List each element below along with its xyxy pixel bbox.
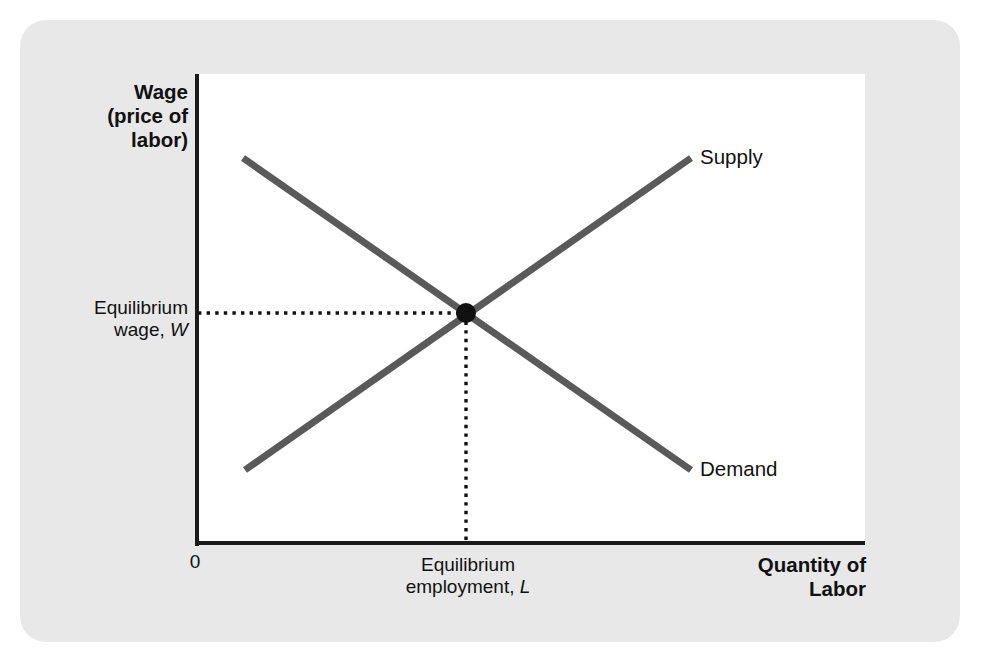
x-axis-title: Quantity of Labor bbox=[700, 553, 866, 601]
equilibrium-employment-text: Equilibrium employment, bbox=[406, 554, 520, 597]
equilibrium-employment-symbol: L bbox=[520, 576, 531, 597]
supply-curve-label: Supply bbox=[700, 145, 763, 169]
origin-label: 0 bbox=[182, 551, 208, 573]
demand-curve-label: Demand bbox=[700, 457, 778, 481]
equilibrium-point-marker bbox=[456, 303, 476, 323]
figure-root: Wage (price of labor) Equilibrium wage, … bbox=[0, 0, 982, 667]
y-axis-title: Wage (price of labor) bbox=[46, 80, 188, 153]
equilibrium-wage-label: Equilibrium wage, W bbox=[40, 297, 188, 342]
equilibrium-wage-symbol: W bbox=[170, 319, 188, 340]
equilibrium-employment-label: Equilibrium employment, L bbox=[370, 554, 566, 599]
